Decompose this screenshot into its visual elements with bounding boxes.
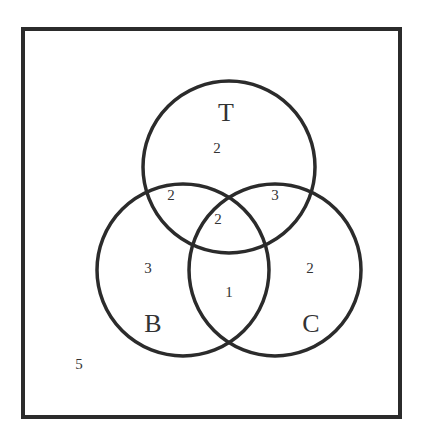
region-t-and-b: 2 <box>167 187 175 203</box>
set-c-label: C <box>302 309 319 338</box>
region-outside: 5 <box>75 356 83 372</box>
region-b-and-c: 1 <box>225 284 233 300</box>
region-t-and-c: 3 <box>271 187 279 203</box>
set-c-circle <box>189 184 361 356</box>
set-b-label: B <box>144 309 161 338</box>
region-c-only: 2 <box>306 260 314 276</box>
region-t-only: 2 <box>213 140 221 156</box>
set-t-label: T <box>218 98 234 127</box>
set-b-circle <box>97 184 269 356</box>
region-b-only: 3 <box>144 260 152 276</box>
region-t-b-c: 2 <box>214 211 222 227</box>
venn-diagram: T B C 2 2 3 2 3 2 1 5 <box>0 0 422 440</box>
